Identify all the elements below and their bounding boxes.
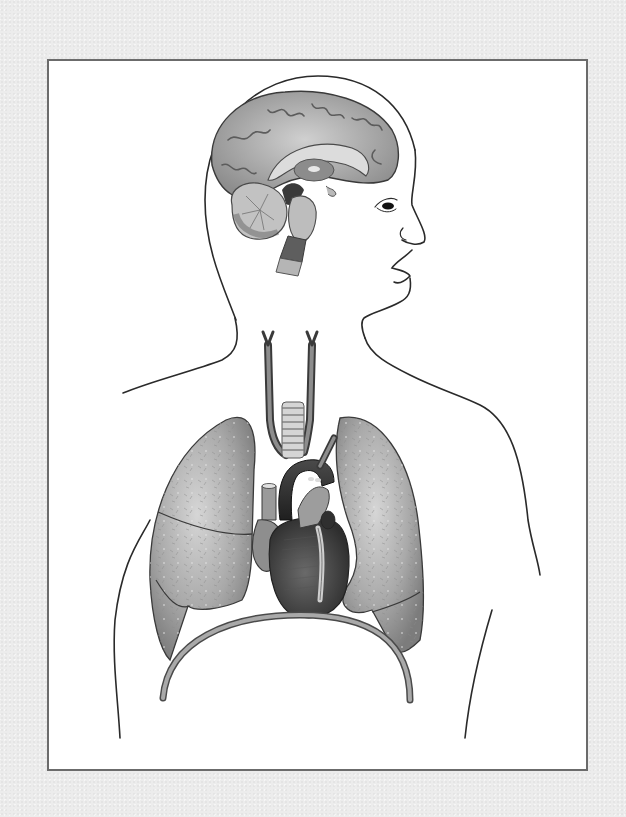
diaphragm [163,615,410,700]
trachea [282,402,304,458]
cerebrum [212,91,399,199]
heart [252,438,349,618]
spinal-cord [280,236,306,262]
brainstem [289,196,317,242]
brain [212,91,399,276]
anatomy-illustration [0,0,626,817]
